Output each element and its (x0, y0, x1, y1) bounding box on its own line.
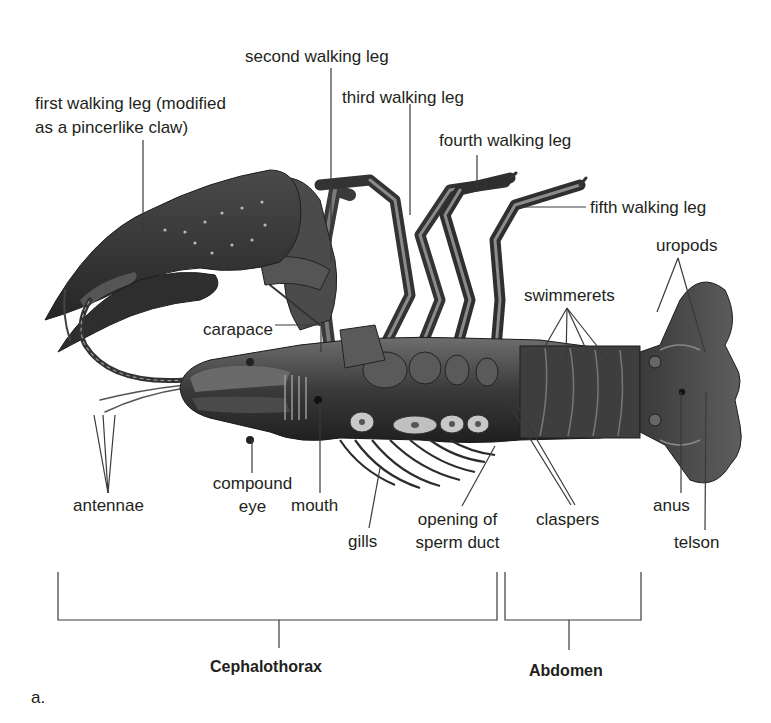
label-first-walking-leg-line2: as a pincerlike claw) (35, 118, 188, 138)
section-brackets (58, 572, 641, 650)
label-compound-eye-line1: compound (205, 474, 300, 494)
label-anus: anus (653, 496, 690, 516)
abdomen-art (520, 282, 741, 483)
panel-label: a. (31, 688, 45, 708)
label-first-walking-leg-line1: first walking leg (modified (35, 94, 226, 114)
section-label-abdomen: Abdomen (529, 662, 603, 680)
label-uropods: uropods (656, 236, 717, 256)
label-antennae: antennae (73, 496, 144, 516)
label-fourth-walking-leg: fourth walking leg (439, 131, 571, 151)
label-sperm-duct-line1: opening of (400, 510, 515, 530)
label-second-walking-leg: second walking leg (245, 47, 389, 67)
label-fifth-walking-leg: fifth walking leg (590, 198, 706, 218)
label-gills: gills (348, 532, 377, 552)
label-compound-eye-line2: eye (205, 497, 300, 517)
section-label-cephalothorax: Cephalothorax (210, 658, 322, 676)
label-third-walking-leg: third walking leg (342, 88, 464, 108)
label-swimmerets: swimmerets (524, 286, 615, 306)
label-carapace: carapace (203, 320, 273, 340)
label-telson: telson (674, 533, 719, 553)
label-claspers: claspers (536, 510, 599, 530)
label-sperm-duct-line2: sperm duct (400, 533, 515, 553)
crayfish-anatomy-diagram: first walking leg (modified as a pincerl… (0, 0, 771, 723)
label-mouth: mouth (291, 496, 338, 516)
